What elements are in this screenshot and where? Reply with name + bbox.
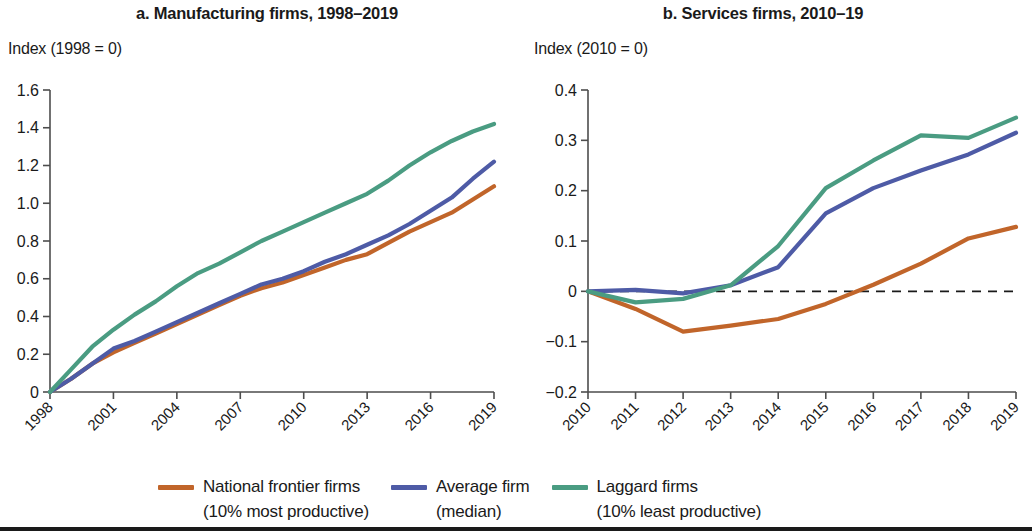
y-tick-label: −0.2 bbox=[545, 384, 577, 401]
x-tick-label: 2015 bbox=[796, 398, 832, 434]
legend-label-sub: (10% most productive) bbox=[203, 499, 369, 524]
x-tick-label: 2019 bbox=[987, 398, 1023, 434]
bottom-rule bbox=[0, 527, 1032, 531]
series-line-national_frontier_firms bbox=[50, 186, 494, 392]
panel-b-axis-caption: Index (2010 = 0) bbox=[534, 40, 648, 58]
x-tick-label: 2013 bbox=[338, 398, 374, 434]
x-tick-label: 2001 bbox=[84, 398, 120, 434]
panel-b-chart-svg: 0.40.30.20.10−0.1−0.22010201120122013201… bbox=[516, 72, 1032, 470]
panel-b-title: b. Services firms, 2010–19 bbox=[516, 4, 1032, 23]
panel-a-title: a. Manufacturing firms, 1998–2019 bbox=[0, 4, 516, 23]
legend-label-average_firm: Average firm(median) bbox=[436, 474, 530, 524]
legend-label-sub: (median) bbox=[436, 499, 530, 524]
legend-swatch-national_frontier_firms bbox=[158, 485, 194, 490]
panel-manufacturing-firms: a. Manufacturing firms, 1998–2019 Index … bbox=[0, 0, 516, 470]
y-tick-label: 0.1 bbox=[555, 233, 577, 250]
x-tick-label: 2016 bbox=[844, 398, 880, 434]
x-tick-label: 1998 bbox=[21, 398, 57, 434]
panel-a-plot: 1.61.41.21.00.80.60.40.20199820012004200… bbox=[0, 72, 516, 470]
x-tick-label: 2013 bbox=[701, 398, 737, 434]
y-tick-label: 0 bbox=[30, 384, 39, 401]
x-tick-label: 2014 bbox=[749, 398, 785, 434]
x-tick-label: 2007 bbox=[211, 398, 247, 434]
y-tick-label: 0.4 bbox=[17, 308, 39, 325]
figure: a. Manufacturing firms, 1998–2019 Index … bbox=[0, 0, 1032, 531]
y-tick-label: 0.2 bbox=[17, 346, 39, 363]
legend-swatch-laggard_firms bbox=[552, 485, 588, 490]
x-tick-label: 2019 bbox=[465, 398, 501, 434]
x-tick-label: 2010 bbox=[559, 398, 595, 434]
y-tick-label: 1.2 bbox=[17, 157, 39, 174]
legend-label-main: National frontier firms bbox=[203, 477, 360, 496]
legend-label-sub: (10% least productive) bbox=[597, 499, 762, 524]
x-tick-label: 2012 bbox=[654, 398, 690, 434]
panel-services-firms: b. Services firms, 2010–19 Index (2010 =… bbox=[516, 0, 1032, 470]
panel-a-axis-caption: Index (1998 = 0) bbox=[8, 40, 122, 58]
legend-item-average_firm[interactable]: Average firm(median) bbox=[391, 474, 530, 524]
y-tick-label: 0.6 bbox=[17, 270, 39, 287]
y-tick-label: −0.1 bbox=[545, 333, 577, 350]
legend-item-laggard_firms[interactable]: Laggard firms(10% least productive) bbox=[552, 474, 762, 524]
x-tick-label: 2004 bbox=[147, 398, 183, 434]
y-tick-label: 1.6 bbox=[17, 82, 39, 99]
x-tick-label: 2018 bbox=[939, 398, 975, 434]
panel-a-chart-svg: 1.61.41.21.00.80.60.40.20199820012004200… bbox=[0, 72, 516, 470]
legend-label-main: Average firm bbox=[436, 477, 530, 496]
x-tick-label: 2011 bbox=[607, 398, 642, 433]
y-tick-label: 0.3 bbox=[555, 132, 577, 149]
legend-row: National frontier firms(10% most product… bbox=[158, 474, 783, 524]
y-tick-label: 0.8 bbox=[17, 233, 39, 250]
x-tick-label: 2010 bbox=[274, 398, 310, 434]
y-tick-label: 0.4 bbox=[555, 82, 577, 99]
chart-legend: National frontier firms(10% most product… bbox=[0, 470, 1032, 531]
series-line-average_firm bbox=[50, 162, 494, 392]
series-line-average_firm bbox=[588, 133, 1016, 294]
legend-item-national_frontier_firms[interactable]: National frontier firms(10% most product… bbox=[158, 474, 369, 524]
x-tick-label: 2017 bbox=[891, 398, 927, 434]
legend-swatch-average_firm bbox=[391, 485, 427, 490]
y-tick-label: 0.2 bbox=[555, 182, 577, 199]
panel-b-plot: 0.40.30.20.10−0.1−0.22010201120122013201… bbox=[516, 72, 1032, 470]
legend-label-main: Laggard firms bbox=[597, 477, 698, 496]
y-tick-label: 1.4 bbox=[17, 119, 39, 136]
legend-label-laggard_firms: Laggard firms(10% least productive) bbox=[597, 474, 762, 524]
x-tick-label: 2016 bbox=[401, 398, 437, 434]
y-tick-label: 0 bbox=[568, 283, 577, 300]
y-tick-label: 1.0 bbox=[17, 195, 39, 212]
legend-label-national_frontier_firms: National frontier firms(10% most product… bbox=[203, 474, 369, 524]
series-line-laggard_firms bbox=[588, 118, 1016, 303]
